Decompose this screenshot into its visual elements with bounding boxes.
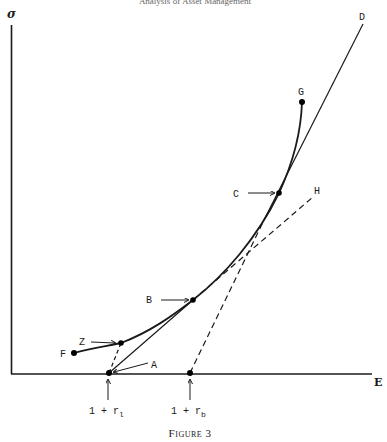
label-d: D (359, 12, 365, 23)
marker-rb: 1 + rb (171, 380, 206, 419)
label-rb: 1 + rb (171, 406, 206, 419)
label-c: C (233, 189, 239, 200)
line-rb-to-c (190, 216, 266, 373)
label-b: B (146, 295, 152, 306)
figure-diagram: Analysis of Asset Management σ E D G H C… (0, 0, 387, 442)
point-b (190, 297, 196, 303)
point-rb (187, 370, 193, 376)
point-a (106, 370, 112, 376)
point-c (276, 190, 282, 196)
label-a: A (151, 360, 157, 371)
axes: σ E (7, 7, 382, 389)
line-b-to-h (193, 197, 313, 300)
frontier-curve (74, 102, 302, 353)
point-z (118, 340, 124, 346)
point-g (299, 99, 305, 105)
y-axis-label: σ (7, 7, 16, 21)
marker-rl: 1 + rl (89, 380, 124, 419)
page-header: Analysis of Asset Management (139, 0, 252, 6)
label-h: H (314, 186, 320, 197)
label-rl: 1 + rl (89, 406, 124, 419)
points (71, 99, 305, 376)
label-z: Z (79, 337, 85, 348)
arrow-z (91, 342, 115, 343)
label-g: G (298, 87, 304, 98)
point-f (71, 350, 77, 356)
label-f: F (60, 349, 66, 360)
figure-caption: Figure 3 (169, 427, 212, 439)
x-axis-label: E (374, 376, 382, 389)
